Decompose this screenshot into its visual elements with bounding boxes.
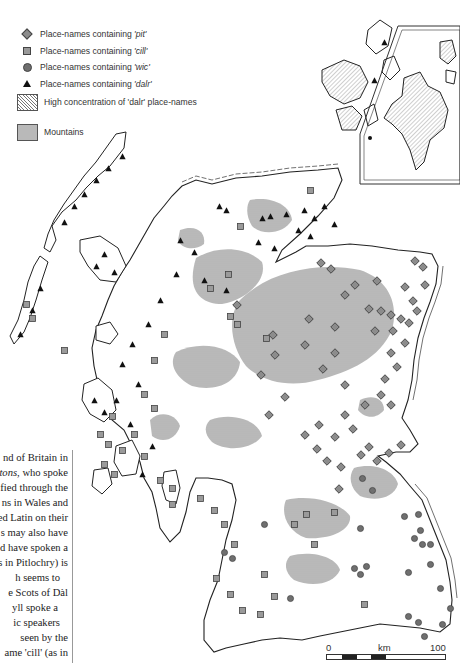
diamond-icon [21, 29, 32, 40]
text-line: ame 'cill' (as in [4, 647, 68, 658]
text-sidebar: nd of Britain in tons, who spoke fied th… [0, 450, 73, 663]
mainland [92, 164, 457, 652]
legend-item-dalr: Place-names containing 'dalr' [14, 76, 274, 93]
map-legend: Place-names containing 'pit' Place-names… [14, 26, 274, 142]
legend-item-wic: Place-names containing 'wic' [14, 59, 274, 76]
legend-item-dalr-concentration: High concentration of 'dalr' place-names [14, 92, 274, 112]
scale-start: 0 [326, 642, 331, 653]
text-line: h seems to [15, 572, 60, 583]
text-line: ed Latin on their [0, 512, 68, 523]
text-line: ic speakers [13, 617, 60, 628]
text-line: fied through the [0, 482, 68, 493]
scale-end: 100 [430, 642, 446, 653]
hatched-area-icon [17, 94, 38, 111]
text-line: s in Pitlochry) is [0, 557, 68, 568]
legend-item-pit: Place-names containing 'pit' [14, 26, 274, 43]
triangle-icon [23, 80, 31, 87]
text-line: ns in Wales and [2, 497, 68, 508]
stippled-area-icon [17, 124, 38, 141]
scale-bar: 0 km 100 [326, 642, 446, 662]
legend-item-cill: Place-names containing 'cill' [14, 43, 274, 60]
text-line: d have spoken a [0, 542, 68, 553]
text-line: e Scots of Dàl [8, 587, 68, 598]
scale-unit: km [378, 642, 391, 653]
scale-ruler [326, 654, 446, 660]
square-icon [23, 47, 31, 55]
legend-item-mountains: Mountains [14, 122, 274, 142]
text-line: nd of Britain in [3, 452, 68, 463]
text-line: tons, who spoke [0, 467, 68, 478]
text-line: yll spoke a [12, 602, 58, 613]
text-line: s may also have [1, 527, 68, 538]
text-line: seen by the [20, 632, 68, 643]
circle-icon [23, 63, 32, 72]
